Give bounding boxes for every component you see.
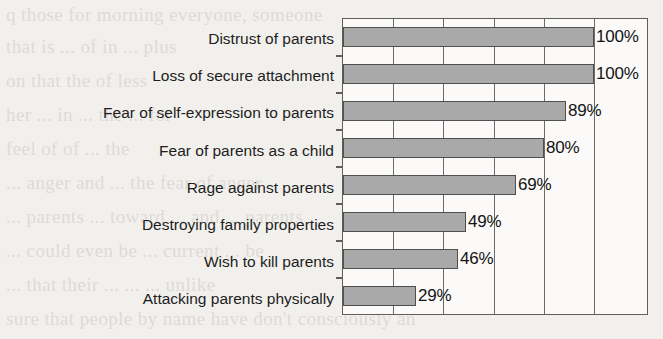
axis-tick [336, 166, 343, 168]
plot-area: 100% 100% 89% 80% 69% 49% 46% 29% [342, 18, 648, 315]
bar-value-label: 89% [568, 101, 601, 121]
category-label: Distrust of parents [0, 31, 334, 47]
bar [343, 212, 466, 232]
bar-value-label: 29% [418, 286, 451, 306]
axis-tick [336, 277, 343, 279]
axis-tick [336, 203, 343, 205]
category-label: Attacking parents physically [0, 291, 334, 307]
bar-value-label: 100% [596, 27, 639, 47]
bar-value-label: 100% [596, 64, 639, 84]
bar-value-label: 80% [546, 138, 579, 158]
category-label: Rage against parents [0, 180, 334, 196]
bar [343, 101, 566, 121]
category-label: Fear of self-expression to parents [0, 105, 334, 121]
axis-tick [336, 129, 343, 131]
category-axis-labels: Distrust of parents Loss of secure attac… [0, 0, 334, 339]
bar-value-label: 49% [468, 212, 501, 232]
bar-value-label: 46% [460, 249, 493, 269]
bar [343, 27, 594, 47]
category-label: Destroying family properties [0, 217, 334, 233]
horizontal-bar-chart: Distrust of parents Loss of secure attac… [0, 0, 663, 339]
bar [343, 286, 416, 306]
category-label: Fear of parents as a child [0, 143, 334, 159]
category-label: Loss of secure attachment [0, 68, 334, 84]
bar-value-label: 69% [518, 175, 551, 195]
axis-tick [336, 55, 343, 57]
axis-tick [336, 240, 343, 242]
axis-tick [336, 92, 343, 94]
category-label: Wish to kill parents [0, 254, 334, 270]
bar [343, 249, 458, 269]
bar [343, 175, 516, 195]
bar [343, 64, 594, 84]
gridline-100 [594, 19, 595, 314]
bar [343, 138, 544, 158]
